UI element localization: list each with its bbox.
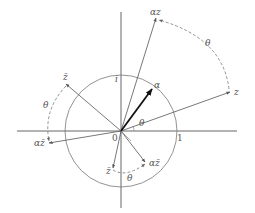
- alpha-label: α: [154, 80, 160, 90]
- origin-label: 0: [112, 133, 118, 143]
- diagram-canvas: αz θ z α i z̄ θ θ αz̄ 0 1 z̄ αz̄ θ: [0, 0, 255, 213]
- lower-zbar-label: z̄: [105, 166, 111, 176]
- upper-left-vector: [66, 84, 121, 131]
- theta-label-upper: θ: [205, 38, 211, 48]
- theta-arc-upper: [159, 20, 229, 89]
- z-vector: [121, 92, 230, 131]
- alpha-zbar-vector: [121, 131, 145, 162]
- unit-label: 1: [177, 133, 183, 143]
- theta-label-left: θ: [43, 100, 49, 110]
- theta-arc-left: [48, 86, 66, 141]
- complex-plane-figure: αz θ z α i z̄ θ θ αz̄ 0 1 z̄ αz̄ θ: [0, 0, 255, 213]
- upper-left-zbar-label: z̄: [62, 72, 68, 82]
- lower-alpha-zbar-label: αz̄: [149, 158, 160, 168]
- left-alpha-zbar-label: αz̄: [34, 138, 45, 148]
- left-alpha-zbar-vector: [49, 131, 121, 143]
- alpha-vector: [121, 89, 152, 131]
- z-label: z: [233, 87, 239, 97]
- alpha-z-vector: [121, 18, 156, 131]
- diagonal-line: [121, 131, 131, 141]
- theta-label-origin: θ: [139, 118, 145, 128]
- imaginary-unit-label: i: [115, 74, 118, 84]
- theta-arc-bottom: [113, 164, 145, 173]
- theta-label-bottom: θ: [127, 173, 133, 183]
- alpha-z-label: αz: [150, 7, 161, 17]
